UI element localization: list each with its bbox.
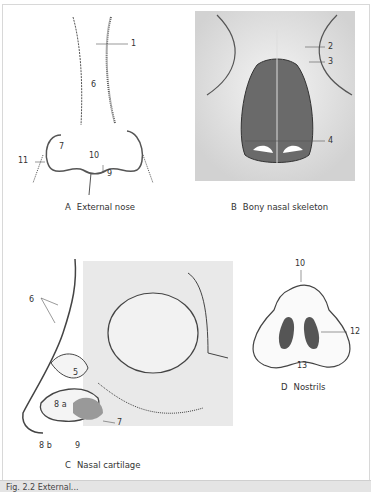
caption-d: DNostrils — [281, 382, 326, 392]
figure-caption-bar: Fig. 2.2 External... — [0, 480, 371, 492]
label-6: 6 — [29, 296, 34, 304]
panel-d-nostrils: 10 12 13 DNostrils — [239, 260, 369, 400]
label-9: 9 — [107, 170, 112, 178]
label-10: 10 — [295, 260, 305, 268]
figure-frame: 1 6 7 10 11 9 AExternal nose 2 3 4 BBony… — [2, 4, 370, 482]
label-10: 10 — [89, 152, 99, 160]
label-7: 7 — [59, 143, 64, 151]
label-13: 13 — [297, 362, 307, 370]
label-8a: 8 a — [54, 401, 67, 409]
label-9: 9 — [75, 442, 80, 450]
panel-b-bony-nasal-skeleton: 2 3 4 BBony nasal skeleton — [187, 5, 369, 230]
label-6: 6 — [91, 81, 96, 89]
caption-c: CNasal cartilage — [65, 460, 140, 470]
label-2: 2 — [328, 43, 333, 51]
caption-a: AExternal nose — [65, 202, 135, 212]
label-11: 11 — [18, 157, 28, 165]
bony-skeleton-illustration — [187, 5, 369, 230]
nasal-cartilage-illustration — [3, 253, 233, 483]
label-12: 12 — [350, 328, 360, 336]
label-4: 4 — [328, 137, 333, 145]
label-5: 5 — [73, 369, 78, 377]
external-nose-illustration — [3, 5, 183, 230]
label-1: 1 — [131, 40, 136, 48]
figure-caption: Fig. 2.2 External... — [6, 483, 79, 492]
caption-b: BBony nasal skeleton — [231, 202, 328, 212]
label-8b: 8 b — [39, 442, 52, 450]
label-3: 3 — [328, 58, 333, 66]
panel-a-external-nose: 1 6 7 10 11 9 AExternal nose — [3, 5, 183, 230]
label-7: 7 — [117, 419, 122, 427]
panel-c-nasal-cartilage: 6 5 8 a 7 8 b 9 CNasal cartilage — [3, 253, 233, 483]
